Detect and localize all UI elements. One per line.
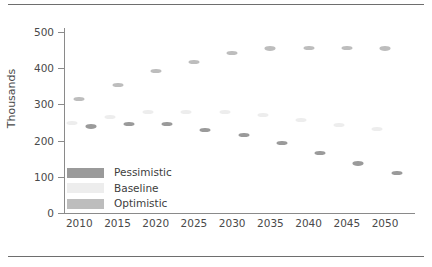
y-axis-tick-label: 200 [0,136,54,147]
y-axis-tick-label: 300 [0,99,54,110]
legend-item[interactable]: Baseline [67,182,159,195]
y-axis-tick-label: 100 [0,172,54,183]
top-divider-rule [8,4,424,5]
legend-item[interactable]: Pessimistic [67,166,172,179]
legend-swatch [67,183,104,193]
y-axis-tick-label: 500 [0,27,54,38]
legend-label: Baseline [114,183,159,194]
legend-item[interactable]: Optimistic [67,197,167,210]
chart-figure: Thousands 0100200300400500 2010201520202… [0,0,432,267]
legend-swatch [67,199,104,209]
legend-label: Pessimistic [114,167,172,178]
bottom-divider-rule [8,256,424,257]
y-axis-tick-label: 400 [0,63,54,74]
y-axis-tick [58,213,64,214]
x-axis-tick-label: 2050 [363,218,407,229]
y-axis-tick-label: 0 [0,208,54,219]
legend-label: Optimistic [114,198,167,209]
legend-swatch [67,168,104,178]
chart-legend: PessimisticBaselineOptimistic [67,166,195,213]
